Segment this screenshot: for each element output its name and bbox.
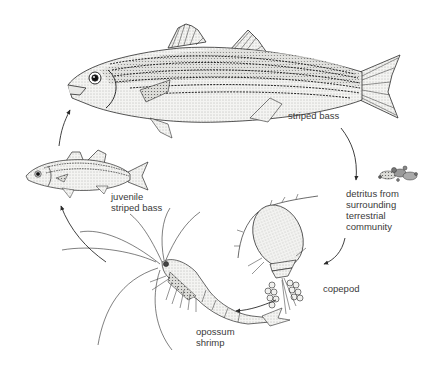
- striped-bass-illustration: [68, 24, 400, 138]
- label-detritus-line-2: surrounding: [346, 199, 399, 210]
- label-juvenile-striped-bass: juvenile striped bass: [111, 191, 162, 213]
- arrow-shrimp-to-juvenile: [61, 206, 106, 262]
- arrow-bass-to-detritus: [341, 128, 356, 180]
- label-opossum-shrimp: opossum shrimp: [196, 326, 235, 348]
- detritus-illustration: [379, 166, 418, 181]
- label-copepod: copepod: [323, 283, 359, 294]
- label-juvenile-line-2: striped bass: [111, 202, 162, 213]
- label-detritus-line-3: terrestrial: [346, 210, 399, 221]
- label-juvenile-line-1: juvenile: [111, 191, 162, 202]
- arrow-detritus-to-copepod: [324, 238, 345, 264]
- label-detritus-line-1: detritus from: [346, 188, 399, 199]
- label-detritus: detritus from surrounding terrestrial co…: [346, 188, 399, 232]
- label-striped-bass: striped bass: [288, 110, 339, 121]
- cycle-arrows: [59, 110, 356, 311]
- label-shrimp-line-1: opossum: [196, 326, 235, 337]
- label-detritus-line-4: community: [346, 221, 399, 232]
- arrow-juvenile-to-bass: [59, 110, 70, 146]
- label-shrimp-line-2: shrimp: [196, 337, 235, 348]
- copepod-illustration: [234, 194, 318, 314]
